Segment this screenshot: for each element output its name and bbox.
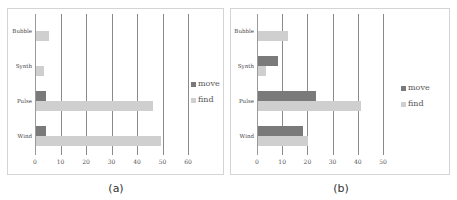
legend-find: find [191, 95, 214, 104]
gridline [307, 14, 308, 155]
category-label: Bubble [2, 28, 32, 34]
x-tick-label: 10 [57, 158, 65, 165]
bar-move-wind [36, 126, 46, 136]
bar-find-pulse [36, 101, 153, 111]
bar-find-wind [36, 136, 161, 146]
bar-find-synth [36, 66, 44, 76]
bar-move-wind [258, 126, 303, 136]
gridline [333, 14, 334, 155]
gridline [137, 14, 138, 155]
x-tick-label: 0 [255, 158, 259, 165]
x-tick-label: 40 [354, 158, 362, 165]
chart-panel-b: 01020304050WindPulseSynthBubblemovefind [230, 8, 450, 175]
bar-find-pulse [258, 101, 361, 111]
legend-move: move [401, 83, 430, 92]
category-label: Bubble [224, 28, 254, 34]
x-tick-label: 40 [133, 158, 141, 165]
legend-find: find [401, 99, 424, 108]
category-label: Pulse [2, 98, 32, 104]
gridline [383, 14, 384, 155]
x-tick-label: 20 [304, 158, 312, 165]
plot-area [35, 14, 188, 155]
bar-find-synth [258, 66, 266, 76]
legend-label: move [408, 83, 430, 92]
x-tick-label: 50 [159, 158, 167, 165]
gridline [163, 14, 164, 155]
legend-swatch [191, 98, 196, 103]
caption-a: (a) [108, 182, 123, 195]
bar-find-bubble [258, 31, 288, 41]
plot-area [257, 14, 383, 155]
bar-find-wind [258, 136, 308, 146]
bar-find-bubble [36, 31, 49, 41]
gridline [358, 14, 359, 155]
legend-swatch [401, 102, 406, 107]
x-tick-label: 10 [278, 158, 286, 165]
caption-b: (b) [333, 182, 349, 195]
x-tick-label: 30 [108, 158, 116, 165]
legend-label: find [198, 95, 214, 104]
chart-panel-a: 0102030405060WindPulseSynthBubblemovefin… [7, 8, 224, 175]
category-label: Wind [2, 133, 32, 139]
category-label: Pulse [224, 98, 254, 104]
x-tick-label: 60 [184, 158, 192, 165]
category-label: Wind [224, 133, 254, 139]
x-tick-label: 0 [33, 158, 37, 165]
gridline [61, 14, 62, 155]
legend-swatch [191, 82, 196, 87]
bar-move-pulse [258, 91, 316, 101]
gridline [86, 14, 87, 155]
legend-label: move [198, 79, 220, 88]
bar-move-synth [258, 56, 278, 66]
gridline [112, 14, 113, 155]
x-tick-label: 30 [329, 158, 337, 165]
x-tick-label: 20 [82, 158, 90, 165]
x-tick-label: 50 [379, 158, 387, 165]
legend-label: find [408, 99, 424, 108]
category-label: Synth [2, 63, 32, 69]
bar-move-pulse [36, 91, 46, 101]
gridline [188, 14, 189, 155]
legend-move: move [191, 79, 220, 88]
category-label: Synth [224, 63, 254, 69]
legend-swatch [401, 86, 406, 91]
